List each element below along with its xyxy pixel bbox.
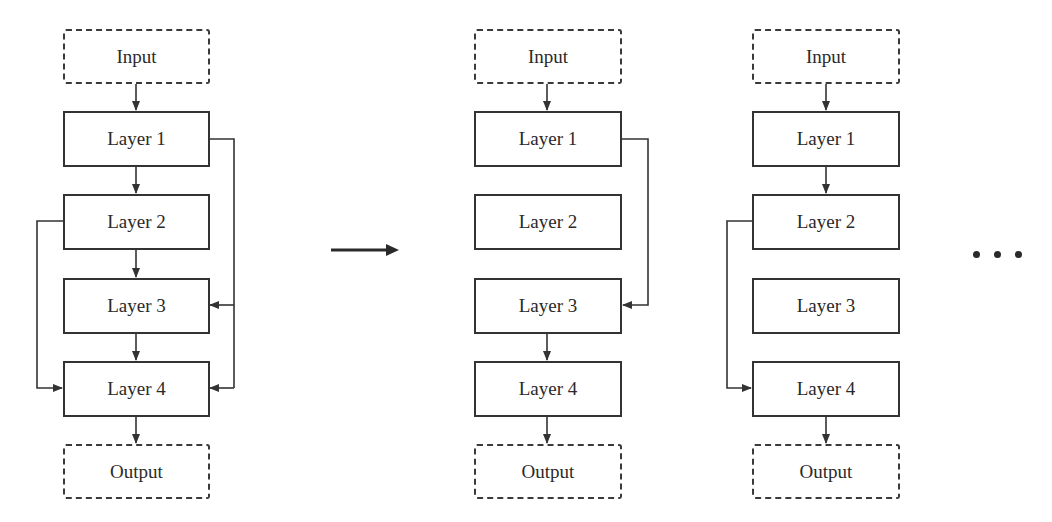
layer-4-node: Layer 4: [752, 361, 900, 417]
transition-arrow-icon: [331, 244, 399, 256]
layer-3-node: Layer 3: [752, 278, 900, 334]
layer-1-node: Layer 1: [63, 111, 210, 167]
input-node: Input: [474, 29, 622, 84]
output-node: Output: [474, 444, 622, 499]
output-node: Output: [752, 444, 900, 499]
output-node: Output: [63, 444, 210, 499]
layer-1-node: Layer 1: [752, 111, 900, 167]
skip-layer2-to-layer4: [727, 221, 752, 388]
layer-2-node: Layer 2: [752, 194, 900, 250]
layer-3-node: Layer 3: [474, 278, 622, 334]
layer-1-node: Layer 1: [474, 111, 622, 167]
layer-4-node: Layer 4: [63, 361, 210, 417]
input-node: Input: [63, 29, 210, 84]
skip-bus-layer1: [209, 139, 234, 388]
input-node: Input: [752, 29, 900, 84]
layer-3-node: Layer 3: [63, 278, 210, 334]
skip-layer2-to-layer4: [37, 221, 63, 388]
skip-layer1-to-layer3: [622, 139, 648, 305]
layer-2-node: Layer 2: [63, 194, 210, 250]
layer-2-node: Layer 2: [474, 194, 622, 250]
layer-4-node: Layer 4: [474, 361, 622, 417]
